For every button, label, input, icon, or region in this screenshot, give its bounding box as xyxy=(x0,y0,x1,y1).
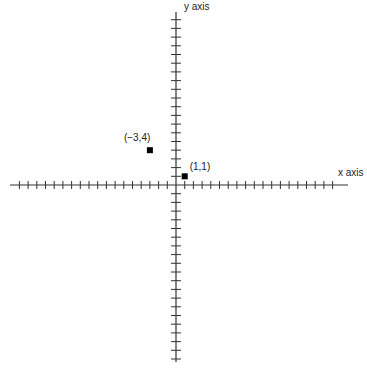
x-axis-label: x axis xyxy=(338,167,364,178)
point-label: (−3,4) xyxy=(124,132,150,143)
point-neg3-4: (−3,4) xyxy=(124,132,153,153)
point-label: (1,1) xyxy=(190,161,211,172)
point-marker xyxy=(182,173,188,179)
point-marker xyxy=(147,147,153,153)
coordinate-plane: y axis x axis (−3,4) (1,1) xyxy=(0,0,367,371)
y-axis-label: y axis xyxy=(184,1,210,12)
point-1-1: (1,1) xyxy=(182,161,211,179)
